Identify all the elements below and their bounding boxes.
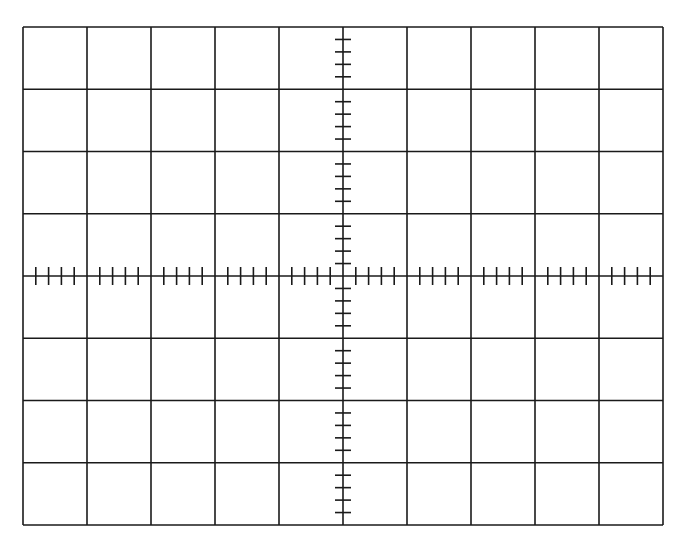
oscilloscope-graticule [0, 0, 676, 539]
